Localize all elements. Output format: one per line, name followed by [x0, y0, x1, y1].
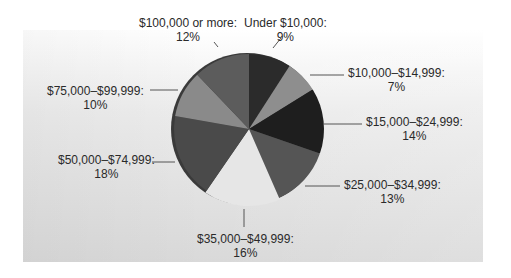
slice-label-under-10000: Under $10,000:9% — [244, 16, 327, 44]
slice-label-15000-24999: $15,000–$24,999:14% — [366, 115, 463, 143]
slice-label-25000-34999: $25,000–$34,999:13% — [344, 178, 441, 206]
slice-label-75000-99999: $75,000–$99,999:10% — [47, 84, 144, 112]
slice-label-35000-49999: $35,000–$49,999:16% — [197, 232, 294, 260]
slice-label-100000-plus: $100,000 or more:12% — [139, 16, 237, 44]
slice-label-50000-74999: $50,000–$74,999:18% — [58, 153, 155, 181]
slice-label-10000-14999: $10,000–$14,999:7% — [348, 66, 445, 94]
